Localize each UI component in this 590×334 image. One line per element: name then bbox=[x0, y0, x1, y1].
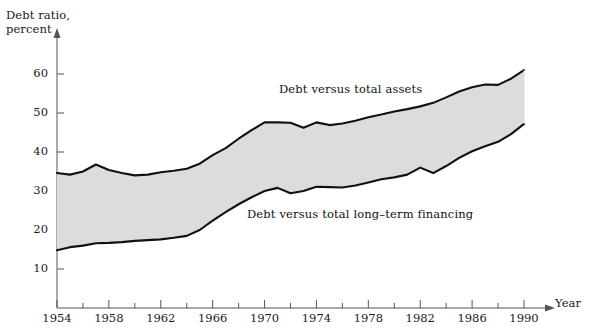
chart-plot-area bbox=[0, 0, 590, 334]
chart-figure: Debt ratio,percent Year 102030405060 195… bbox=[0, 0, 590, 334]
y-tick-label: 50 bbox=[22, 105, 48, 119]
x-axis-ticks bbox=[57, 300, 524, 308]
x-tick-label: 1958 bbox=[87, 311, 131, 325]
x-tick-label: 1978 bbox=[346, 311, 390, 325]
x-tick-label: 1974 bbox=[294, 311, 338, 325]
x-axis-arrow-icon bbox=[545, 305, 555, 312]
series-label-debt-versus-total-assets: Debt versus total assets bbox=[279, 82, 422, 96]
y-tick-label: 20 bbox=[22, 222, 48, 236]
y-axis-arrow-icon bbox=[54, 28, 61, 38]
x-tick-label: 1982 bbox=[398, 311, 442, 325]
y-tick-label: 10 bbox=[22, 261, 48, 275]
x-tick-label: 1990 bbox=[502, 311, 546, 325]
x-tick-label: 1954 bbox=[35, 311, 79, 325]
y-tick-label: 30 bbox=[22, 183, 48, 197]
x-tick-label: 1966 bbox=[191, 311, 235, 325]
y-tick-label: 40 bbox=[22, 144, 48, 158]
x-tick-label: 1970 bbox=[243, 311, 287, 325]
series-label-debt-versus-long-term-financing: Debt versus total long–term financing bbox=[247, 207, 473, 221]
x-tick-label: 1986 bbox=[450, 311, 494, 325]
y-tick-label: 60 bbox=[22, 66, 48, 80]
x-tick-label: 1962 bbox=[139, 311, 183, 325]
